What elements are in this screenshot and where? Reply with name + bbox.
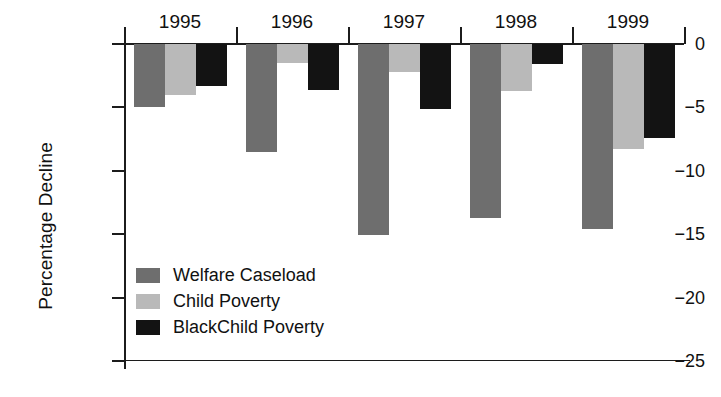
y-axis-tick bbox=[112, 43, 124, 45]
bar-1997-child-poverty bbox=[389, 44, 420, 72]
y-axis-tick bbox=[112, 233, 124, 235]
bar-1999-child-poverty bbox=[613, 44, 644, 149]
x-axis-group-label-1998: 1998 bbox=[460, 11, 572, 33]
x-axis-group-label-1995: 1995 bbox=[124, 11, 236, 33]
legend-item-welfare-caseload: Welfare Caseload bbox=[136, 262, 324, 288]
chart-legend: Welfare CaseloadChild PovertyBlackChild … bbox=[136, 262, 324, 340]
y-axis-tick-label: −10 bbox=[617, 160, 721, 181]
bar-1996-welfare-caseload bbox=[246, 44, 277, 152]
y-axis-tick-label: −15 bbox=[617, 224, 721, 245]
bar-1996-child-poverty bbox=[277, 44, 308, 63]
bar-1995-child-poverty bbox=[165, 44, 196, 95]
chart-container: Percentage Decline 0−5−10−15−20−25199519… bbox=[0, 0, 721, 397]
y-axis-tick-label: −25 bbox=[617, 351, 721, 372]
legend-label: Welfare Caseload bbox=[173, 265, 316, 286]
bar-1999-blackchild-poverty bbox=[644, 44, 675, 138]
legend-item-blackchild-poverty: BlackChild Poverty bbox=[136, 314, 324, 340]
bar-1998-welfare-caseload bbox=[470, 44, 501, 218]
legend-swatch-icon bbox=[136, 320, 160, 335]
y-axis-tick bbox=[112, 297, 124, 299]
chart-bottom-rule bbox=[124, 360, 690, 361]
bar-1995-blackchild-poverty bbox=[196, 44, 227, 86]
bar-1996-blackchild-poverty bbox=[308, 44, 339, 90]
y-axis-tick bbox=[112, 170, 124, 172]
group-separator-tick bbox=[684, 27, 686, 44]
bar-1997-blackchild-poverty bbox=[420, 44, 451, 109]
bar-1998-child-poverty bbox=[501, 44, 532, 91]
x-axis-group-label-1997: 1997 bbox=[348, 11, 460, 33]
y-axis-line bbox=[124, 37, 126, 369]
bar-1995-welfare-caseload bbox=[134, 44, 165, 107]
x-axis-group-label-1996: 1996 bbox=[236, 11, 348, 33]
legend-item-child-poverty: Child Poverty bbox=[136, 288, 324, 314]
bar-1998-blackchild-poverty bbox=[532, 44, 563, 64]
x-axis-group-label-1999: 1999 bbox=[572, 11, 684, 33]
y-axis-tick bbox=[112, 106, 124, 108]
legend-swatch-icon bbox=[136, 268, 160, 283]
legend-swatch-icon bbox=[136, 294, 160, 309]
bar-1997-welfare-caseload bbox=[358, 44, 389, 235]
legend-label: Child Poverty bbox=[173, 291, 280, 312]
y-axis-tick-label: −20 bbox=[617, 287, 721, 308]
plot-area: 0−5−10−15−20−2519951996199719981999 bbox=[0, 0, 721, 397]
bar-1999-welfare-caseload bbox=[582, 44, 613, 229]
y-axis-tick bbox=[112, 360, 124, 362]
legend-label: BlackChild Poverty bbox=[173, 317, 324, 338]
